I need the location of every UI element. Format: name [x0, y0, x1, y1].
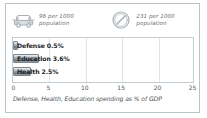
x-tick-label: 5 — [46, 84, 50, 91]
bar-label-health: Health 2.5% — [17, 67, 58, 76]
stat-car: 96 per 1000 population — [6, 4, 106, 36]
bar-row: Health 2.5% — [13, 67, 195, 76]
bar-label-education: Education 3.6% — [17, 54, 70, 63]
stat-telephone-text: 231 per 1000 population — [136, 13, 174, 26]
x-axis: 0510152025 — [12, 84, 194, 93]
chart-caption: Defense, Health, Education spending as %… — [13, 95, 195, 102]
bars-layer: Defense 0.5%Education 3.6%Health 2.5% — [13, 38, 193, 82]
stat-car-text: 96 per 1000 population — [39, 13, 74, 26]
bar-chart: Defense 0.5%Education 3.6%Health 2.5% — [12, 37, 194, 83]
car-icon — [12, 10, 35, 30]
plot-area: Defense 0.5%Education 3.6%Health 2.5% — [12, 37, 194, 83]
x-tick-label: 10 — [81, 84, 89, 91]
telephone-dial-icon — [109, 10, 132, 30]
x-tick-label: 15 — [117, 84, 125, 91]
x-tick-label: 0 — [12, 84, 16, 91]
stat-telephone: 231 per 1000 population — [106, 4, 199, 36]
x-tick-label: 25 — [189, 84, 197, 91]
infographic-card: 96 per 1000 population 231 per 1000 popu… — [5, 3, 200, 113]
bar-row: Defense 0.5% — [13, 41, 195, 50]
bar-label-defense: Defense 0.5% — [17, 41, 64, 50]
bar-row: Education 3.6% — [13, 54, 195, 63]
stats-row: 96 per 1000 population 231 per 1000 popu… — [6, 4, 199, 36]
x-tick-label: 20 — [154, 84, 162, 91]
